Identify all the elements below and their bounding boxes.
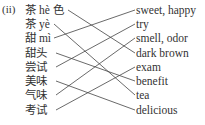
match-line: [68, 10, 135, 53]
match-line: [56, 81, 135, 110]
match-line: [56, 67, 135, 110]
match-line: [56, 53, 135, 81]
match-line: [56, 38, 135, 95]
matching-lines: [0, 0, 205, 125]
match-line: [54, 10, 135, 38]
